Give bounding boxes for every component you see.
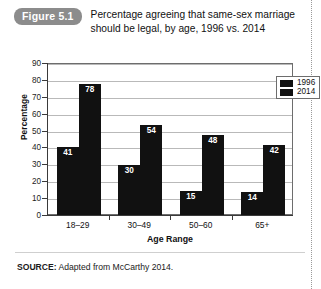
source-text: Adapted from McCarthy 2014. [57, 262, 174, 272]
x-axis-tick-label: 50–60 [189, 220, 212, 230]
bar-value-label: 15 [180, 193, 202, 201]
source-note: SOURCE: Adapted from McCarthy 2014. [17, 262, 173, 272]
gridline [48, 64, 292, 65]
y-axis-ticks: 0102030405060708090 [15, 52, 41, 237]
x-axis-tick [109, 215, 110, 220]
y-axis-tick [42, 198, 47, 199]
y-axis-tick [42, 147, 47, 148]
y-axis-tick-label: 50 [17, 126, 41, 135]
y-axis-tick-label: 30 [17, 160, 41, 169]
x-axis-tick-label: 65+ [255, 220, 269, 230]
y-axis-tick [42, 164, 47, 165]
bar: 14 [241, 192, 263, 216]
y-axis-tick-label: 20 [17, 177, 41, 186]
gridline [48, 81, 292, 82]
plot-area: 4178305415481442 1996 2014 [47, 63, 293, 215]
legend-item: 1996 [280, 79, 315, 87]
page-edge-dotted-rule [311, 0, 312, 289]
figure-header: Figure 5.1 Percentage agreeing that same… [14, 8, 302, 37]
source-label: SOURCE: [17, 262, 57, 272]
x-axis-tick-label: 18–29 [66, 220, 89, 230]
y-axis-tick [42, 97, 47, 98]
legend-swatch-icon [280, 89, 293, 96]
y-axis-tick [42, 181, 47, 182]
legend-label: 2014 [297, 88, 315, 96]
bar-value-label: 54 [140, 127, 162, 135]
y-axis-tick [42, 80, 47, 81]
y-axis-tick-label: 70 [17, 92, 41, 101]
bar: 30 [118, 165, 140, 216]
y-axis-tick-label: 60 [17, 109, 41, 118]
bar: 41 [57, 147, 79, 216]
y-axis-line [47, 63, 48, 215]
bar: 15 [180, 191, 202, 216]
y-axis-tick-label: 0 [17, 211, 41, 220]
legend-item: 2014 [280, 88, 315, 96]
bar-value-label: 78 [79, 86, 101, 94]
y-axis-tick-label: 10 [17, 194, 41, 203]
bar-value-label: 48 [202, 137, 224, 145]
chart-legend: 1996 2014 [276, 76, 320, 99]
y-axis-tick-label: 80 [17, 75, 41, 84]
x-axis-tick-label: 30–49 [128, 220, 151, 230]
bar-value-label: 30 [118, 167, 140, 175]
bar-value-label: 41 [57, 149, 79, 157]
figure-title: Percentage agreeing that same-sex marria… [91, 8, 302, 37]
figure-number-badge: Figure 5.1 [14, 8, 82, 25]
x-axis-tick [170, 215, 171, 220]
bar: 42 [263, 145, 285, 216]
y-axis-tick [42, 114, 47, 115]
bar: 78 [79, 84, 101, 216]
y-axis-tick [42, 63, 47, 64]
bar-value-label: 42 [263, 147, 285, 155]
bar: 54 [140, 125, 162, 216]
bar: 48 [202, 135, 224, 216]
y-axis-tick-label: 40 [17, 143, 41, 152]
legend-label: 1996 [297, 79, 315, 87]
x-axis-tick [232, 215, 233, 220]
source-separator [15, 252, 305, 253]
bar-chart: Percentage 4178305415481442 1996 2014 01… [15, 52, 299, 237]
y-axis-tick-label: 90 [17, 59, 41, 68]
legend-swatch-icon [280, 80, 293, 87]
x-axis-title: Age Range [47, 234, 293, 244]
y-axis-tick [42, 131, 47, 132]
bar-value-label: 14 [241, 194, 263, 202]
